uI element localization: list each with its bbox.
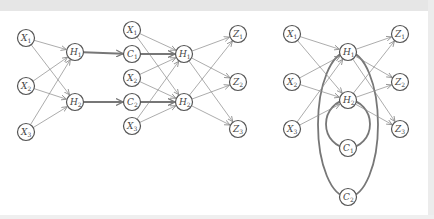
node-z1: Z1: [392, 26, 409, 43]
node-x2: X2: [18, 78, 35, 95]
node-c1: C1: [124, 46, 141, 63]
neural-network-diagram: X1X2X3H1H2C1C2X1X2X3H1H2Z1Z2Z3X1X2X3H1H2…: [0, 0, 434, 219]
edge-arrow: [353, 59, 395, 121]
nodes: X1X2X3H1H2C1C2X1X2X3H1H2Z1Z2Z3X1X2X3H1H2…: [18, 22, 409, 206]
edge-arrow: [299, 56, 340, 78]
edge-arrow: [192, 106, 230, 125]
node-h2: H2: [176, 94, 193, 111]
edge-arrow: [355, 104, 392, 124]
node-z3: Z3: [392, 121, 409, 138]
edge-arrow: [297, 59, 343, 122]
edge-arrow: [189, 61, 233, 122]
node-x1: X1: [124, 22, 141, 39]
node-h1: H1: [340, 44, 357, 61]
node-x1: X1: [18, 30, 35, 47]
node-z1: Z1: [230, 26, 247, 43]
node-c2: C2: [124, 94, 141, 111]
edge-arrow: [300, 37, 339, 50]
node-z3: Z3: [230, 121, 247, 138]
edge-arrow: [300, 104, 340, 125]
edge-arrow: [34, 89, 66, 100]
edge-arrow: [356, 37, 391, 49]
thick-edge-arrow: [83, 52, 123, 53]
node-h1: H1: [176, 46, 193, 63]
edge-arrow: [33, 57, 68, 81]
edge-arrow: [34, 40, 66, 49]
node-x3: X3: [284, 121, 301, 138]
edge-arrow: [33, 107, 67, 128]
edge-arrow: [189, 41, 232, 95]
node-h1: H1: [67, 44, 84, 61]
node-z2: Z2: [392, 74, 409, 91]
edge-arrow: [140, 58, 176, 75]
node-x1: X1: [284, 26, 301, 43]
node-c1: C1: [340, 140, 357, 157]
edge-arrow: [137, 61, 179, 119]
node-x3: X3: [18, 124, 35, 141]
node-x2: X2: [284, 74, 301, 91]
node-x2: X2: [124, 70, 141, 87]
edge-arrow: [192, 37, 230, 51]
node-x3: X3: [124, 118, 141, 135]
node-c2: C2: [340, 189, 357, 206]
edge-arrow: [192, 85, 230, 99]
node-z2: Z2: [230, 74, 247, 91]
node-h2: H2: [340, 92, 357, 109]
node-h2: H2: [67, 94, 84, 111]
